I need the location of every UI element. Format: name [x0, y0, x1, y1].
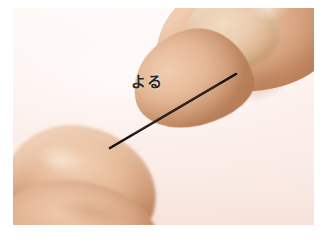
photo-frame: よる [13, 8, 314, 225]
caption-text: よる [131, 75, 162, 90]
page-root: よる [0, 0, 330, 239]
left-hand [13, 121, 173, 225]
right-hand [132, 8, 314, 124]
